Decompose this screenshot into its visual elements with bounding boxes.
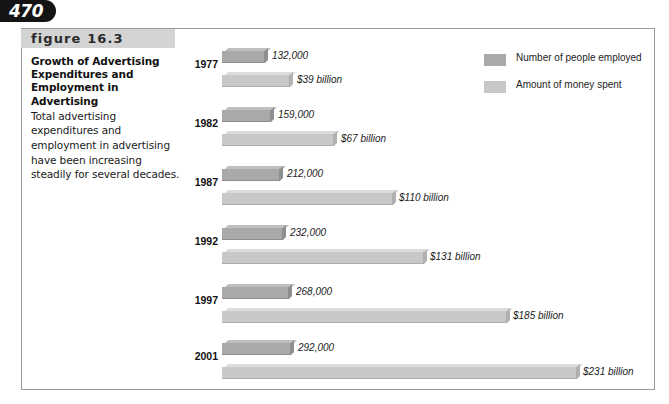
page-number: 470	[9, 1, 43, 21]
figure-number-label: figure 16.3	[31, 31, 124, 46]
figure-description: Total advertising expenditures and emplo…	[31, 109, 181, 182]
figure-caption: Growth of Advertising Expenditures and E…	[31, 55, 181, 182]
figure-header-band: figure 16.3	[21, 29, 175, 48]
figure-title: Growth of Advertising Expenditures and E…	[31, 55, 181, 108]
legend-swatch-employment-icon	[484, 54, 506, 66]
legend-swatch-money-icon	[484, 81, 506, 93]
legend-label-employment: Number of people employed	[516, 52, 642, 63]
legend-label-money: Amount of money spent	[516, 79, 622, 90]
page-number-tab: 470	[0, 0, 56, 22]
